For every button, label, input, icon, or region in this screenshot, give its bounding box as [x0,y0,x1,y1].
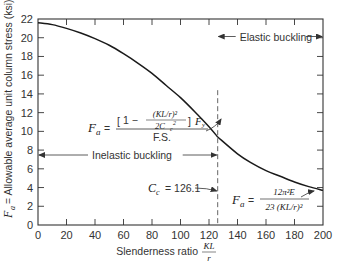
x-tick-label: 200 [314,229,332,241]
y-tick-label: 22 [21,13,33,25]
y-tick-label: 8 [27,144,33,156]
x-tick-label: 120 [200,229,218,241]
y-axis-label: Fa= Allowable average unit column stress… [1,0,17,219]
inelastic-buckling-label: Inelastic buckling [92,149,172,161]
svg-text:Slenderness ratio: Slenderness ratio [116,245,198,257]
x-tick-label: 20 [60,229,72,241]
x-tick-label: 80 [146,229,158,241]
svg-text:2: 2 [173,120,176,126]
svg-text:r: r [207,253,211,263]
elastic-buckling-label: Elastic buckling [240,31,313,43]
x-tick-label: 40 [89,229,101,241]
svg-text:= Allowable average unit colum: = Allowable average unit column stress (… [2,0,14,204]
y-tick-label: 14 [21,88,33,100]
x-tick-label: 60 [117,229,129,241]
svg-text:12π²E: 12π²E [273,187,295,197]
x-tick-label: 0 [35,229,41,241]
y-tick-label: 2 [27,200,33,212]
y-tick-label: 20 [21,32,33,44]
cc-label: Cc= 126.1 [148,181,217,197]
inelastic-formula: Fa=[1 −(KL/r)²2Cc2]FyF.S. [87,109,221,143]
svg-text:a: a [240,199,245,209]
annotations: Elastic bucklingInelastic bucklingCc= 12… [39,31,322,226]
x-axis-label: Slenderness ratioKLr [116,241,216,263]
y-tick-label: 16 [21,69,33,81]
y-tick-label: 12 [21,107,33,119]
svg-text:[: [ [117,115,120,127]
elastic-curve [218,137,323,190]
curves [38,23,323,191]
y-tick-label: 10 [21,125,33,137]
x-tick-label: 140 [228,229,246,241]
svg-text:23 (KL/r)²: 23 (KL/r)² [266,202,303,212]
svg-text:F: F [1,210,15,219]
svg-text:a: a [8,206,17,210]
svg-text:=: = [104,122,110,134]
x-tick-label: 180 [285,229,303,241]
svg-text:F: F [194,115,202,127]
svg-text:a: a [96,127,101,137]
x-tick-label: 100 [171,229,189,241]
y-tick-label: 4 [27,182,33,194]
x-tick-label: 160 [257,229,275,241]
column-stress-chart: 0204060801001201401601802000246810121416… [0,0,337,264]
y-tick-label: 18 [21,50,33,62]
elastic-formula: Fa=12π²E23 (KL/r)² [231,187,314,212]
svg-text:c: c [156,188,160,197]
svg-text:]: ] [188,115,191,127]
svg-text:2C: 2C [155,121,165,131]
y-tick-label: 6 [27,163,33,175]
svg-text:F.S.: F.S. [153,131,171,143]
y-tick-label: 0 [27,219,33,231]
svg-text:KL: KL [202,241,214,251]
svg-text:1 −: 1 − [123,114,138,126]
svg-text:(KL/r)²: (KL/r)² [153,109,178,119]
svg-text:=: = [248,194,254,206]
